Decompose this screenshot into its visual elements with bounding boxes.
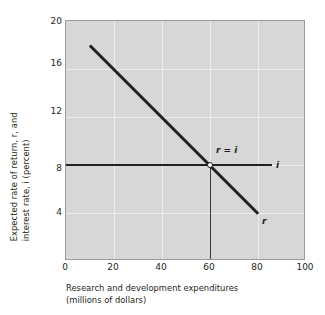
x-axis-tick-labels: 0 20 40 60 80 100 [65, 263, 305, 277]
x-tick-20: 20 [107, 263, 118, 272]
plot-area: r = i i r [65, 20, 305, 260]
gridline-x-80 [258, 21, 259, 259]
series-label-i: i [276, 161, 279, 170]
gridline-y-12 [66, 117, 304, 118]
y-axis-title-text-1: Expected rate of return, r, and [9, 112, 19, 241]
chart-figure: Expected rate of return, r, and interest… [0, 0, 325, 315]
x-axis-title-line-1: Research and development expenditures [66, 283, 316, 295]
gridline-x-40 [162, 21, 163, 259]
y-tick-4: 4 [36, 208, 62, 217]
y-axis-title-text-2: interest rate, i (percent) [21, 139, 31, 241]
y-axis-tick-labels: 20 16 12 8 4 [36, 0, 62, 315]
x-tick-100: 100 [296, 263, 313, 272]
equilibrium-label: r = i [216, 146, 237, 155]
gridline-x-20 [114, 21, 115, 259]
x-axis-title-line-2: (millions of dollars) [66, 295, 316, 307]
x-tick-80: 80 [251, 263, 262, 272]
y-tick-8: 8 [36, 164, 62, 173]
y-axis-title-line-1: Expected rate of return, r, and [10, 112, 18, 241]
gridline-y-16 [66, 69, 304, 70]
equilibrium-drop-line [210, 167, 211, 260]
x-tick-40: 40 [155, 263, 166, 272]
y-tick-16: 16 [36, 59, 62, 68]
x-tick-0: 0 [62, 263, 68, 272]
x-tick-60: 60 [203, 263, 214, 272]
x-axis-title: Research and development expenditures (m… [66, 283, 316, 306]
y-axis-title-line-2: interest rate, i (percent) [22, 139, 30, 241]
gridline-y-4 [66, 213, 304, 214]
y-tick-20: 20 [36, 17, 62, 26]
equilibrium-marker [207, 162, 213, 168]
y-tick-12: 12 [36, 107, 62, 116]
series-label-r: r [262, 217, 266, 226]
series-line-i [66, 164, 272, 167]
